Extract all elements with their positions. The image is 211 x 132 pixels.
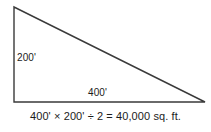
area-formula-caption: 400' × 200' ÷ 2 = 40,000 sq. ft. (0, 109, 211, 123)
triangle-outline (14, 7, 205, 102)
base-label: 400' (88, 87, 107, 99)
height-label: 200' (17, 52, 36, 64)
triangle-area-figure: 200' 400' 400' × 200' ÷ 2 = 40,000 sq. f… (0, 0, 211, 132)
